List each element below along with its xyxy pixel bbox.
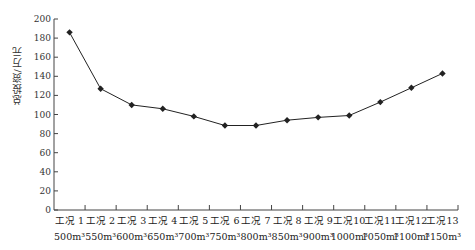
x-category-label: 工况12	[395, 215, 427, 226]
y-tick-label: 0	[45, 205, 51, 215]
y-tick-label: 20	[40, 186, 52, 196]
data-point-diamond-icon	[160, 106, 166, 112]
x-category-label: 工况 8	[273, 215, 302, 226]
data-point-diamond-icon	[191, 113, 197, 119]
x-category-sublabel: 500m³	[54, 231, 85, 242]
data-point-diamond-icon	[377, 99, 383, 105]
axes	[54, 19, 458, 210]
x-category-label: 工况13	[426, 215, 458, 226]
x-category-sublabel: 700m³	[178, 231, 209, 242]
data-series	[66, 29, 445, 129]
y-tick-label: 160	[34, 52, 51, 62]
y-tick-label: 140	[34, 71, 51, 81]
line-chart: 020406080100120140160180200 工况 1500m³工况 …	[0, 0, 475, 250]
x-category-sublabel: 850m³	[272, 231, 303, 242]
y-tick-label: 40	[40, 167, 52, 177]
x-category-label: 工况 9	[304, 215, 333, 226]
x-category-label: 工况 6	[210, 215, 239, 226]
y-tick-label: 180	[34, 33, 51, 43]
data-point-diamond-icon	[128, 102, 134, 108]
x-category-sublabel: 900m³	[303, 231, 334, 242]
y-tick-label: 100	[34, 110, 51, 120]
y-tick-label: 80	[40, 129, 52, 139]
data-point-diamond-icon	[284, 117, 290, 123]
y-tick-label: 120	[34, 90, 51, 100]
x-category-label: 工况 1	[55, 215, 84, 226]
x-category-sublabel: 1150m³	[424, 231, 461, 242]
data-point-diamond-icon	[253, 122, 259, 128]
x-category-sublabel: 600m³	[116, 231, 147, 242]
data-point-diamond-icon	[408, 85, 414, 91]
y-tick-label: 60	[40, 148, 52, 158]
x-category-sublabel: 550m³	[85, 231, 116, 242]
data-point-diamond-icon	[97, 86, 103, 92]
data-point-diamond-icon	[346, 112, 352, 118]
x-axis-ticks: 工况 1500m³工况 2550m³工况 3600m³工况 4650m³工况 5…	[54, 205, 461, 242]
data-point-diamond-icon	[439, 70, 445, 76]
data-point-diamond-icon	[66, 29, 72, 35]
x-category-label: 工况11	[364, 215, 396, 226]
x-category-label: 工况 7	[241, 215, 270, 226]
x-category-sublabel: 650m³	[147, 231, 178, 242]
data-point-diamond-icon	[315, 114, 321, 120]
series-line	[70, 32, 443, 125]
x-category-sublabel: 750m³	[209, 231, 240, 242]
x-category-label: 工况 3	[117, 215, 146, 226]
x-category-sublabel: 800m³	[241, 231, 272, 242]
x-category-label: 工况 5	[179, 215, 208, 226]
data-point-diamond-icon	[222, 122, 228, 128]
y-tick-label: 200	[34, 14, 51, 24]
x-category-label: 工况 4	[148, 215, 177, 226]
x-category-label: 工况 2	[86, 215, 115, 226]
x-category-label: 工况10	[333, 215, 365, 226]
